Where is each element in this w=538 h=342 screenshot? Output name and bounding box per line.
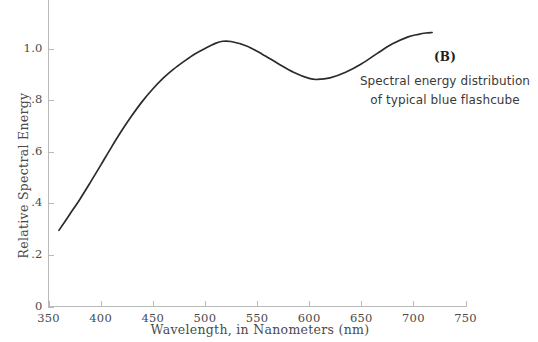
chart-figure: 0.2.4.6.81.0 350400450500550600650700750… <box>0 0 538 342</box>
y-axis-title: Relative Spectral Energy <box>16 76 31 276</box>
chart-annotation: (B) Spectral energy distribution of typi… <box>352 48 538 110</box>
axes-group <box>49 0 466 307</box>
caption-block: Spectral energy distribution of typical … <box>352 72 538 110</box>
x-axis-title: Wavelength, in Nanometers (nm) <box>0 322 520 337</box>
caption-line-1: Spectral energy distribution <box>352 72 538 91</box>
caption-line-2: of typical blue flashcube <box>352 91 538 110</box>
panel-label: (B) <box>352 48 538 66</box>
y-tick-label: 1.0 <box>1 41 43 55</box>
